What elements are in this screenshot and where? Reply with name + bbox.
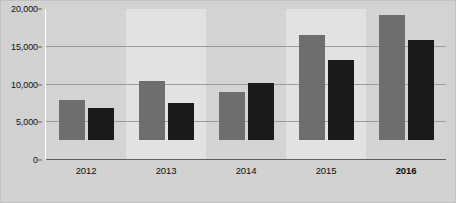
bar[interactable]: 15,231 <box>408 40 434 140</box>
bar-column: 19,139 <box>379 9 405 140</box>
y-tick-label: 5,000 <box>16 117 38 127</box>
y-tick-mark <box>38 160 42 161</box>
x-tick-label: 2016 <box>366 160 446 180</box>
y-tick-label: 20,000 <box>11 4 38 14</box>
x-tick-label: 2013 <box>126 160 206 180</box>
x-axis: 20122013201420152016 <box>46 160 446 180</box>
y-tick-label: 15,000 <box>11 42 38 52</box>
bar-column: 6,124 <box>59 9 85 140</box>
y-tick-mark <box>38 46 42 47</box>
plot-area: 6,1244,8919,0105,6237,3728,69115,97312,2… <box>46 9 446 160</box>
bar-group: 19,13915,231 <box>366 9 446 140</box>
bar[interactable]: 19,139 <box>379 15 405 140</box>
bar-groups-layer: 6,1244,8919,0105,6237,3728,69115,97312,2… <box>46 9 446 140</box>
y-axis: 20,000 15,000 10,000 5,000 0 <box>1 9 42 160</box>
bar-column: 15,231 <box>408 9 434 140</box>
plot-frame: 6,1244,8919,0105,6237,3728,69115,97312,2… <box>46 9 446 180</box>
bar-column: 5,623 <box>168 9 194 140</box>
bar-group: 7,3728,691 <box>206 9 286 140</box>
bar-group: 15,97312,205 <box>286 9 366 140</box>
y-tick-label: 10,000 <box>11 80 38 90</box>
bar[interactable]: 4,891 <box>88 108 114 140</box>
bar-chart-figure: 20,000 15,000 10,000 5,000 0 6,1244,8919… <box>0 0 456 203</box>
y-tick-mark <box>38 84 42 85</box>
bar-column: 15,973 <box>299 9 325 140</box>
bar-column: 8,691 <box>248 9 274 140</box>
bar-column: 4,891 <box>88 9 114 140</box>
bar[interactable]: 8,691 <box>248 83 274 140</box>
y-tick-mark <box>38 122 42 123</box>
x-tick-label: 2015 <box>286 160 366 180</box>
bar[interactable]: 15,973 <box>299 35 325 140</box>
bar-column: 9,010 <box>139 9 165 140</box>
bar[interactable]: 9,010 <box>139 81 165 140</box>
bar[interactable]: 6,124 <box>59 100 85 140</box>
bar[interactable]: 7,372 <box>219 92 245 140</box>
bar-group: 9,0105,623 <box>126 9 206 140</box>
y-axis-line <box>45 9 46 160</box>
bar-column: 7,372 <box>219 9 245 140</box>
bar-column: 12,205 <box>328 9 354 140</box>
bar[interactable]: 12,205 <box>328 60 354 140</box>
x-tick-label: 2012 <box>46 160 126 180</box>
y-tick-mark <box>38 9 42 10</box>
bar[interactable]: 5,623 <box>168 103 194 140</box>
bar-group: 6,1244,891 <box>46 9 126 140</box>
x-tick-label: 2014 <box>206 160 286 180</box>
